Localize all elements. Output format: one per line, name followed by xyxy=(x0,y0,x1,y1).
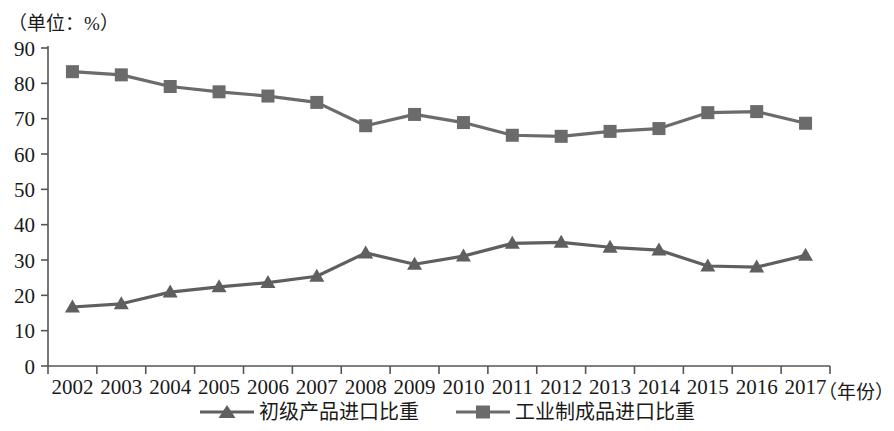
data-point-square-marker xyxy=(652,122,665,135)
y-axis-tick-label: 70 xyxy=(14,107,35,131)
data-point-square-marker xyxy=(457,116,470,129)
y-axis-tick-label: 90 xyxy=(14,37,35,61)
square-marker-icon xyxy=(455,403,511,421)
data-point-square-marker xyxy=(66,65,79,78)
y-axis-tick-label: 10 xyxy=(14,319,35,343)
x-axis-tick-label: 2008 xyxy=(345,375,387,399)
chart-legend: 初级产品进口比重 工业制成品进口比重 xyxy=(0,402,894,422)
x-axis-tick-label: 2004 xyxy=(149,375,192,399)
x-axis-tick-label: 2007 xyxy=(296,375,338,399)
x-axis-tick-label: 2013 xyxy=(589,375,631,399)
data-point-square-marker xyxy=(164,80,177,93)
x-axis-tick-label: 2010 xyxy=(442,375,484,399)
data-point-square-marker xyxy=(799,117,812,130)
series-line xyxy=(72,242,805,307)
y-axis-tick-label: 80 xyxy=(14,72,35,96)
legend-label-manufactured-goods: 工业制成品进口比重 xyxy=(515,402,695,422)
data-point-square-marker xyxy=(310,96,323,109)
data-point-square-marker xyxy=(261,90,274,103)
x-axis-tick-label: 2015 xyxy=(687,375,729,399)
x-axis-tick-label: 2014 xyxy=(638,375,681,399)
x-axis-title: （年份） xyxy=(818,377,894,404)
data-point-square-marker xyxy=(555,130,568,143)
y-axis-tick-label: 40 xyxy=(14,213,35,237)
x-axis-tick-label: 2006 xyxy=(247,375,289,399)
data-point-triangle-marker xyxy=(798,248,813,261)
x-axis-tick-label: 2009 xyxy=(394,375,436,399)
legend-item-manufactured-goods[interactable]: 工业制成品进口比重 xyxy=(455,402,695,422)
data-point-square-marker xyxy=(115,68,128,81)
x-axis-tick-label: 2003 xyxy=(100,375,142,399)
series-primary-products xyxy=(65,235,813,313)
data-point-square-marker xyxy=(359,119,372,132)
y-axis-tick-label: 30 xyxy=(14,249,35,273)
data-point-square-marker xyxy=(506,129,519,142)
legend-item-primary-products[interactable]: 初级产品进口比重 xyxy=(199,402,419,422)
data-point-square-marker xyxy=(701,106,714,119)
data-point-square-marker xyxy=(750,105,763,118)
data-point-square-marker xyxy=(408,108,421,121)
legend-label-primary-products: 初级产品进口比重 xyxy=(259,402,419,422)
data-point-square-marker xyxy=(213,85,226,98)
y-axis-tick-label: 60 xyxy=(14,143,35,167)
series-line xyxy=(72,72,805,137)
y-axis-tick-label: 50 xyxy=(14,178,35,202)
y-axis-tick-label: 20 xyxy=(14,284,35,308)
x-axis-tick-label: 2005 xyxy=(198,375,240,399)
y-axis-tick-label: 0 xyxy=(25,355,36,379)
data-point-triangle-marker xyxy=(358,245,373,258)
x-axis-tick-label: 2012 xyxy=(540,375,582,399)
import-share-line-chart: （单位：%） 010203040506070809020022003200420… xyxy=(0,0,894,431)
triangle-marker-icon xyxy=(199,403,255,421)
x-axis-tick-label: 2011 xyxy=(492,375,533,399)
chart-plot-area: 0102030405060708090200220032004200520062… xyxy=(0,0,894,400)
x-axis-tick-label: 2002 xyxy=(51,375,93,399)
series-manufactured-goods xyxy=(66,65,812,143)
x-axis-tick-label: 2016 xyxy=(736,375,778,399)
data-point-square-marker xyxy=(604,125,617,138)
